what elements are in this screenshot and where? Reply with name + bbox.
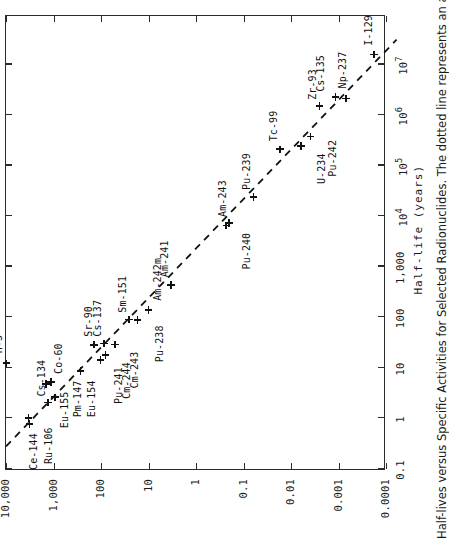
data-point-label: Ce-144 [28,433,39,470]
figure-caption: Half-lives versus Specific Activities fo… [435,0,449,539]
data-point-label: Pu-240 [241,233,252,270]
y-axis-tick [339,16,340,22]
x-axis-tick [6,316,12,317]
x-axis-tick-label: 100 [394,309,406,329]
y-axis-tick [101,463,102,469]
data-point-label: Am-242m [152,258,163,301]
data-point-label: Eu-154 [86,380,97,417]
y-axis-tick [291,16,292,22]
y-axis-tick-label: 10,000 [0,479,11,543]
x-axis-tick [378,265,384,266]
y-axis-tick-label: 10 [142,479,154,543]
x-axis-tick [378,164,384,165]
y-axis-tick-label: 0.0001 [379,479,391,543]
y-axis-tick [339,463,340,469]
y-axis-tick [54,463,55,469]
y-axis-tick [244,16,245,22]
y-axis-tick [244,463,245,469]
data-point-label: H-3 [0,335,4,353]
y-axis-tick [196,16,197,22]
x-axis-tick [378,114,384,115]
plot-inner: H-3Ce-144Ru-106Cs-134Eu-155Co-60Pm-147Eu… [6,16,384,469]
y-axis-tick [149,463,150,469]
x-axis-title: Half-life (years) [412,165,425,295]
data-point-label: Pm-147 [72,381,83,418]
y-axis-tick [149,16,150,22]
data-point-label: I-129 [363,15,374,46]
x-axis-tick [6,63,12,64]
y-axis-tick-label: 0.1 [237,479,249,543]
data-point-label: Cs-137 [92,300,103,337]
y-axis-tick-label: 1,000 [47,479,59,543]
y-axis-tick [101,16,102,22]
x-axis-tick [6,417,12,418]
x-axis-tick-label: 1,000 [394,251,406,284]
x-axis-tick-label: 105 [394,157,409,176]
x-axis-tick-label: 104 [394,208,409,227]
x-axis-tick [6,265,12,266]
data-point-label: Cs-134 [36,360,47,397]
x-axis-tick-label: 0.1 [394,460,406,480]
x-axis-tick [378,417,384,418]
y-axis-tick [386,463,387,469]
x-axis-tick [378,63,384,64]
data-point-label: Eu-155 [59,392,70,429]
x-axis-tick [378,316,384,317]
y-axis-tick-label: 100 [94,479,106,543]
data-point-label: Cm-243 [129,352,140,389]
data-point-label: Pu-238 [154,325,165,362]
data-point-label: Np-237 [337,52,348,89]
y-axis-tick-label: 0.01 [284,479,296,543]
x-axis-tick-label: 107 [394,56,409,75]
data-point-label: Co-60 [53,343,64,374]
x-axis-tick [6,114,12,115]
data-point-label: Tc-99 [268,111,279,142]
plot-area: H-3Ce-144Ru-106Cs-134Eu-155Co-60Pm-147Eu… [5,15,385,470]
y-axis-tick [6,16,7,22]
data-point-label: Pu-242 [327,140,338,177]
y-axis-tick [54,16,55,22]
x-axis-tick [378,367,384,368]
data-point-label: Cs-135 [315,55,326,92]
y-axis-tick-label: 0.001 [332,479,344,543]
x-axis-tick [378,468,384,469]
y-axis-tick-label: 1 [189,479,201,543]
x-axis-tick [378,215,384,216]
y-axis-tick [196,463,197,469]
y-axis-tick [386,16,387,22]
data-point-label: Sm-151 [117,276,128,313]
x-axis-tick-label: 1 [394,416,406,423]
data-point-label: U-234 [316,153,327,184]
x-axis-tick-label: 10 [394,362,406,375]
y-axis-tick [291,463,292,469]
x-axis-tick-label: 106 [394,107,409,126]
y-axis-tick [6,463,7,469]
data-point-label: Ru-106 [43,427,54,464]
data-point-label: Am-243 [217,180,228,217]
x-axis-tick [6,164,12,165]
data-point-label: Pu-239 [241,153,252,190]
x-axis-tick [6,215,12,216]
